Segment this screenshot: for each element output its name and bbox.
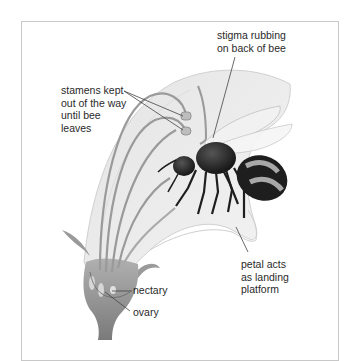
- nectary-label: nectary: [133, 284, 167, 297]
- stamens-label: stamens kept out of the way until bee le…: [61, 84, 126, 134]
- ovary-label: ovary: [133, 306, 159, 319]
- nectary-spot: [89, 276, 95, 290]
- petal-label: petal acts as landing platform: [241, 258, 289, 296]
- anther-lower: [181, 127, 191, 135]
- stigma-label: stigma rubbing on back of bee: [217, 29, 286, 54]
